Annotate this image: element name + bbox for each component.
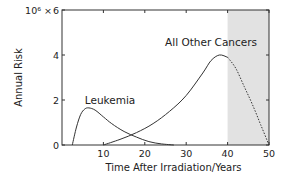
x-tick-label: 30 [180, 148, 192, 159]
x-tick-label: 50 [263, 148, 275, 159]
leukemia-curve [72, 108, 174, 145]
y-multiplier-label: 10⁶ × [25, 5, 52, 16]
y-tick-label: 2 [53, 95, 59, 106]
leukemia-label: Leukemia [85, 94, 136, 106]
chart-canvas: 1020304050 0246 Leukemia All Other Cance… [0, 0, 288, 183]
x-tick-label: 40 [222, 148, 234, 159]
x-axis-label: Time After Irradiation/Years [104, 162, 241, 173]
y-tick-label: 6 [53, 5, 59, 16]
other-cancers-label: All Other Cancers [165, 36, 257, 48]
y-tick-label: 0 [53, 140, 59, 151]
x-tick-label: 10 [97, 148, 109, 159]
y-tick-label: 4 [53, 50, 59, 61]
latency-shaded-region [228, 10, 269, 145]
x-tick-label: 20 [139, 148, 151, 159]
y-axis-label: Annual Risk [13, 48, 24, 107]
risk-chart: 1020304050 0246 Leukemia All Other Cance… [0, 0, 288, 183]
